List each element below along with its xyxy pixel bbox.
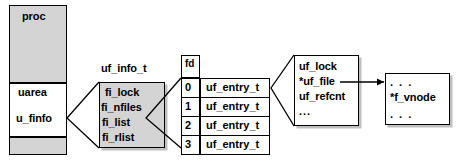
fd-entry-3: uf_entry_t xyxy=(206,138,259,150)
field-fi-nfiles: fi_nfiles xyxy=(101,101,142,113)
fd-index-3: 3 xyxy=(185,138,191,150)
proc-struct-bottom-segment xyxy=(9,137,67,155)
uarea-label: uarea xyxy=(18,86,47,98)
fd-entry-2: uf_entry_t xyxy=(206,119,259,131)
field-file-ellipsis-bottom: . . . xyxy=(390,108,413,120)
u-finfo-label: u_finfo xyxy=(16,112,52,124)
arrowhead-icon xyxy=(377,79,384,86)
field-fi-list: fi_list xyxy=(102,116,130,128)
fd-index-1: 1 xyxy=(185,100,191,112)
proc-label: proc xyxy=(22,10,45,22)
field-fi-lock: fi_lock xyxy=(105,86,139,98)
field-f-vnode: *f_vnode xyxy=(390,91,436,103)
fd-index-2: 2 xyxy=(185,119,191,131)
field-uf-file: *uf_file xyxy=(299,75,335,87)
fd-entry-1: uf_entry_t xyxy=(206,100,259,112)
diagram-canvas: proc uarea u_finfo uf_info_t fi_lock fi_… xyxy=(0,0,461,163)
connector-ufinfo-to-ufinfot xyxy=(67,82,99,148)
connector-fdentry-to-detail xyxy=(271,55,294,126)
fd-index-0: 0 xyxy=(185,81,191,93)
field-file-ellipsis-top: . . . xyxy=(390,76,413,88)
field-uf-lock: uf_lock xyxy=(299,60,337,72)
field-uf-ellipsis: ... xyxy=(299,105,311,117)
field-uf-refcnt: uf_refcnt xyxy=(299,90,345,102)
field-fi-rlist: fi_rlist xyxy=(102,131,134,143)
fd-entry-0: uf_entry_t xyxy=(206,81,259,93)
uf-info-t-title: uf_info_t xyxy=(101,62,147,74)
fd-table-header-label: fd xyxy=(185,58,194,69)
